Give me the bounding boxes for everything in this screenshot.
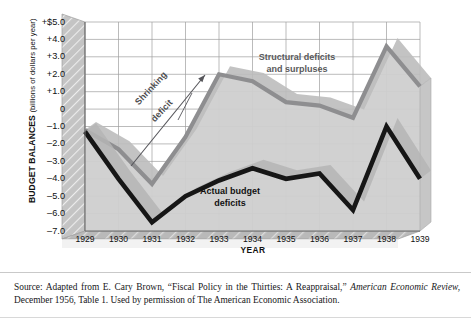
figure-container: +$5.0 +4.0 +3.0 +2.0 +1.0 0 –1.0 –2.0 –3… <box>0 0 471 324</box>
y-axis-title-sub: (billions of dollars per year) <box>28 18 37 112</box>
source-caption: Source: Adapted from E. Cary Brown, “Fis… <box>14 281 460 307</box>
actual-series-label-line2: deficits <box>214 198 246 208</box>
y-axis-title-main: BUDGET BALANCES <box>27 115 37 203</box>
structural-series-label-line1: Structural deficits <box>259 52 336 62</box>
structural-series-label: Structural deficits and surpluses <box>239 52 355 75</box>
y-tick-12: –7.0 <box>25 226 65 236</box>
caption-part1: Source: Adapted from E. Cary Brown, “Fis… <box>14 282 350 292</box>
actual-series-label-line1: Actual budget <box>200 186 260 196</box>
y-tick-11: –6.0 <box>25 208 65 218</box>
actual-series-label: Actual budget deficits <box>182 186 278 209</box>
caption-part2: December 1956, Table 1. Used by permissi… <box>14 295 339 305</box>
structural-extrusion-face <box>420 78 431 231</box>
caption-rule-bottom <box>0 317 471 318</box>
chart-left-wall <box>62 14 85 239</box>
structural-series-label-line2: and surpluses <box>266 64 327 74</box>
x-axis-title: YEAR <box>85 245 421 255</box>
caption-rule-top <box>0 272 471 273</box>
x-tick-1939: 1939 <box>400 234 440 244</box>
y-axis-title: BUDGET BALANCES (billions of dollars per… <box>27 23 37 203</box>
caption-italic-journal: American Economic Review, <box>350 282 460 292</box>
chart-svg <box>0 0 471 272</box>
